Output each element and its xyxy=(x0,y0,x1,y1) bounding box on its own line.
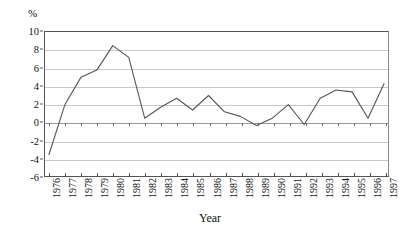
y-axis-tick-mark xyxy=(40,177,43,178)
y-axis-tick-mark xyxy=(40,49,43,50)
x-axis-tick-label: 1993 xyxy=(325,178,335,198)
chart-container: % 1086420-2-4-6 197619771978197919801981… xyxy=(0,0,420,240)
x-axis-tick-label: 1983 xyxy=(164,178,174,198)
x-axis-tick-label: 1981 xyxy=(132,178,142,198)
x-axis-tick-label: 1976 xyxy=(52,178,62,198)
x-axis-tick-label: 1997 xyxy=(389,178,399,198)
x-axis-tick-label: 1991 xyxy=(293,178,303,198)
y-axis-tick-label: 2 xyxy=(34,99,39,110)
y-axis-tick-mark xyxy=(40,104,43,105)
x-axis-tick-label: 1988 xyxy=(245,178,255,198)
y-axis-tick-mark xyxy=(40,122,43,123)
y-axis-tick-label: 4 xyxy=(34,80,39,91)
x-axis-tick-label: 1994 xyxy=(341,178,351,198)
x-axis-tick-label: 1995 xyxy=(357,178,367,198)
plot-area xyxy=(44,31,389,177)
x-axis-tick-label: 1987 xyxy=(229,178,239,198)
x-axis-tick-labels: 1976197719781979198019811982198319841985… xyxy=(44,178,389,208)
y-axis-tick-label: 0 xyxy=(34,117,39,128)
y-axis-tick-label: -2 xyxy=(30,135,39,146)
y-axis-tick-label: -4 xyxy=(30,153,39,164)
x-axis-title: Year xyxy=(0,211,420,225)
y-axis-tick-mark xyxy=(40,67,43,68)
x-axis-tick-label: 1992 xyxy=(309,178,319,198)
y-axis-tick-mark xyxy=(40,85,43,86)
x-axis-tick-label: 1984 xyxy=(180,178,190,198)
y-axis-tick-mark xyxy=(40,158,43,159)
x-axis-tick-label: 1980 xyxy=(116,178,126,198)
x-axis-tick-label: 1985 xyxy=(196,178,206,198)
x-axis-tick-label: 1986 xyxy=(213,178,223,198)
x-axis-tick-label: 1978 xyxy=(84,178,94,198)
x-axis-tick-label: 1977 xyxy=(68,178,78,198)
y-axis-tick-labels: 1086420-2-4-6 xyxy=(0,31,42,177)
y-axis-tick-label: 10 xyxy=(29,26,40,37)
series-line-chart xyxy=(45,32,388,177)
y-axis-tick-mark xyxy=(40,31,43,32)
y-axis-unit-label: % xyxy=(28,7,37,19)
series-line-polyline xyxy=(49,46,384,155)
y-axis-tick-mark xyxy=(40,140,43,141)
x-axis-tick-label: 1982 xyxy=(148,178,158,198)
y-axis-tick-label: -6 xyxy=(30,172,39,183)
y-axis-tick-label: 8 xyxy=(34,44,39,55)
x-axis-tick-label: 1996 xyxy=(373,178,383,198)
y-axis-tick-label: 6 xyxy=(34,62,39,73)
x-axis-tick-label: 1989 xyxy=(261,178,271,198)
x-axis-tick-label: 1990 xyxy=(277,178,287,198)
x-axis-tick-label: 1979 xyxy=(100,178,110,198)
